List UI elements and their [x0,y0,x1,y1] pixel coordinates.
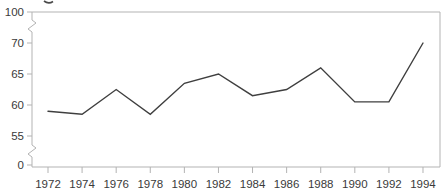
y-tick-label: 65 [11,68,24,80]
y-tick-label: 60 [11,99,24,111]
chart-screenshot: 1007065605501972197419761978198019821984… [0,0,444,193]
x-tick-label: 1988 [308,178,334,190]
x-tick-label: 1986 [274,178,300,190]
y-tick-label: 55 [11,130,24,142]
y-tick-label: 70 [11,37,24,49]
cropped-character-fragment [44,1,53,3]
y-tick-label: 100 [5,6,24,18]
x-tick-label: 1976 [103,178,129,190]
y-axis-break-upper-icon [28,20,36,32]
x-tick-label: 1982 [206,178,232,190]
x-tick-label: 1990 [342,178,368,190]
y-axis-break-lower-icon [28,145,36,157]
x-tick-label: 1972 [35,178,61,190]
x-tick-label: 1994 [410,178,436,190]
x-tick-label: 1978 [137,178,163,190]
x-tick-label: 1984 [240,178,266,190]
x-tick-label: 1992 [376,178,402,190]
x-tick-label: 1974 [69,178,95,190]
y-tick-label: 0 [18,159,24,171]
x-tick-label: 1980 [172,178,198,190]
line-chart: 1007065605501972197419761978198019821984… [0,0,444,193]
data-series-line [48,43,423,114]
